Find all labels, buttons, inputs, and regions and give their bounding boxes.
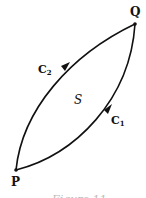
region-s-label: S <box>74 93 82 107</box>
point-p-label: P <box>11 175 20 189</box>
curve-c2-label-sub: 2 <box>47 68 52 77</box>
point-q-label: Q <box>130 5 140 19</box>
curve-c2-label-main: C <box>38 63 47 76</box>
curve-c1-label-sub: 1 <box>120 119 125 128</box>
curve-c1-label-main: C <box>111 114 120 127</box>
curve-c2-label: C2 <box>38 63 52 77</box>
point-p-dot <box>14 168 18 172</box>
figure-caption: Figure 11 <box>51 193 107 198</box>
diagram-canvas: P Q C2 C1 S Figure 11 <box>0 0 146 198</box>
curve-c1-label: C1 <box>111 114 125 128</box>
point-q-dot <box>133 22 137 26</box>
